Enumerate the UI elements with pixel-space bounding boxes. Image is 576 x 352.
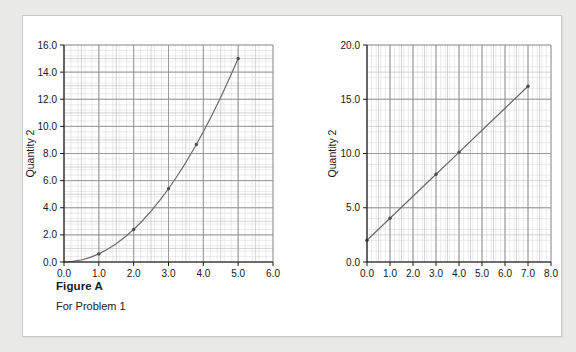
data-point [195, 143, 198, 146]
plot-right: 0.01.02.03.04.05.06.07.08.00.05.010.015.… [313, 16, 563, 278]
figure-card: 0.01.02.03.04.05.06.00.02.04.06.08.010.0… [22, 15, 562, 337]
data-point [97, 252, 100, 255]
x-tick-label: 3.0 [162, 268, 176, 278]
x-tick-label: 6.0 [498, 268, 512, 278]
y-tick-label: 10.0 [341, 148, 361, 159]
data-point [236, 57, 239, 60]
y-tick-label: 15.0 [341, 94, 361, 105]
x-axis-ticks-right: 0.01.02.03.04.05.06.07.08.0 [360, 262, 558, 278]
y-tick-label: 16.0 [38, 40, 58, 51]
x-tick-label: 1.0 [383, 268, 397, 278]
y-tick-label: 20.0 [341, 40, 361, 51]
x-tick-label: 7.0 [521, 268, 535, 278]
y-tick-label: 4.0 [43, 202, 57, 213]
figure-screenshot: 0.01.02.03.04.05.06.00.02.04.06.08.010.0… [0, 0, 576, 352]
x-tick-label: 5.0 [475, 268, 489, 278]
x-tick-label: 2.0 [406, 268, 420, 278]
x-tick-label: 5.0 [231, 268, 245, 278]
y-tick-label: 0.0 [43, 257, 57, 268]
y-tick-label: 14.0 [38, 67, 58, 78]
figure-caption-title: Figure A [56, 280, 486, 293]
y-tick-label: 12.0 [38, 94, 58, 105]
grid-left [64, 45, 273, 262]
x-axis-ticks-left: 0.01.02.03.04.05.06.0 [57, 262, 280, 278]
x-tick-label: 2.0 [127, 268, 141, 278]
y-axis-title: Quantity 2 [326, 129, 338, 177]
data-point [167, 187, 170, 190]
data-point [132, 228, 135, 231]
figure-caption-subtitle: For Problem 1 [56, 300, 486, 313]
y-axis-ticks-right: 0.05.010.015.020.0 [341, 40, 367, 268]
y-tick-label: 8.0 [43, 148, 57, 159]
plot-left: 0.01.02.03.04.05.06.00.02.04.06.08.010.0… [23, 16, 313, 278]
x-tick-label: 0.0 [57, 268, 71, 278]
figure-caption: Figure A For Problem 1 [56, 280, 486, 313]
y-tick-label: 5.0 [346, 202, 360, 213]
x-tick-label: 1.0 [92, 268, 106, 278]
y-tick-label: 6.0 [43, 175, 57, 186]
y-tick-label: 2.0 [43, 229, 57, 240]
data-point [388, 217, 391, 220]
charts-row: 0.01.02.03.04.05.06.00.02.04.06.08.010.0… [23, 16, 561, 278]
x-tick-label: 4.0 [196, 268, 210, 278]
chart-left: 0.01.02.03.04.05.06.00.02.04.06.08.010.0… [23, 16, 313, 278]
x-tick-label: 4.0 [452, 268, 466, 278]
x-tick-label: 6.0 [266, 268, 280, 278]
data-point [434, 173, 437, 176]
y-axis-title: Quantity 2 [24, 129, 36, 177]
x-tick-label: 3.0 [429, 268, 443, 278]
y-tick-label: 10.0 [38, 121, 58, 132]
x-tick-label: 8.0 [544, 268, 558, 278]
x-tick-label: 0.0 [360, 268, 374, 278]
data-point [526, 85, 529, 88]
y-axis-ticks-left: 0.02.04.06.08.010.012.014.016.0 [38, 40, 64, 268]
data-point [457, 151, 460, 154]
y-tick-label: 0.0 [346, 257, 360, 268]
chart-right: 0.01.02.03.04.05.06.07.08.00.05.010.015.… [313, 16, 563, 278]
